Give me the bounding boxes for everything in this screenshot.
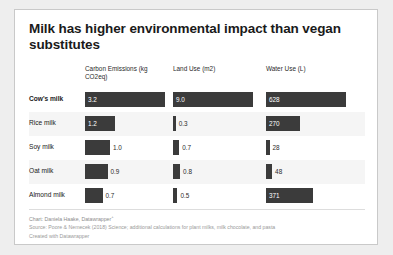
bar-cell: 371 [266, 188, 348, 203]
chart-footer: Chart: Daniela Haake, Datawrapper+ Sourc… [29, 209, 365, 241]
bar [85, 140, 110, 155]
bar-cell: 1.2 [85, 116, 167, 131]
footer-source: Source: Poore & Nemecek (2018) Science; … [29, 223, 365, 232]
bar-value-label: 0.7 [106, 192, 115, 200]
footer-credit-superscript: + [111, 214, 113, 219]
bar-value-label: 3.2 [88, 96, 97, 104]
bar [173, 164, 180, 179]
bar-value-label: 371 [269, 192, 280, 200]
column-header-land-use: Land Use (m2) [173, 65, 255, 73]
bar [266, 164, 272, 179]
bar [173, 116, 176, 131]
bar [173, 188, 177, 203]
bar-value-label: 0.3 [179, 120, 188, 128]
table-row: Cow's milk3.29.0628 [29, 88, 365, 112]
column-header-water-use: Water Use (L) [266, 65, 348, 73]
bar-value-label: 0.9 [111, 168, 120, 176]
bar [173, 140, 179, 155]
footer-created-with: Created with Datawrapper [29, 232, 365, 241]
bar-value-label: 1.2 [88, 120, 97, 128]
table-row: Soy milk1.00.728 [29, 136, 365, 160]
bar-value-label: 0.8 [183, 168, 192, 176]
bar-cell: 270 [266, 116, 348, 131]
bar [173, 92, 253, 107]
bar-value-label: 28 [273, 144, 280, 152]
column-headers: Carbon Emissions (kg CO2eq) Land Use (m2… [29, 65, 365, 88]
table-row: Oat milk0.90.848 [29, 160, 365, 184]
bar-cell: 9.0 [173, 92, 255, 107]
bar-cell: 28 [266, 140, 348, 155]
bar-value-label: 0.5 [180, 192, 189, 200]
bar-value-label: 48 [275, 168, 282, 176]
column-header-carbon-emissions: Carbon Emissions (kg CO2eq) [85, 65, 167, 81]
bar-cell: 0.9 [85, 164, 167, 179]
bar [85, 92, 165, 107]
footer-credit: Chart: Daniela Haake, Datawrapper+ [29, 213, 365, 223]
bar [85, 164, 108, 179]
table-row: Rice milk1.20.3270 [29, 112, 365, 136]
bar-cell: 48 [266, 164, 348, 179]
bar [85, 188, 103, 203]
row-label-rice-milk: Rice milk [29, 119, 83, 126]
bar-cell: 0.7 [85, 188, 167, 203]
bar-cell: 0.7 [173, 140, 255, 155]
bar-cell: 0.8 [173, 164, 255, 179]
bar-cell: 1.0 [85, 140, 167, 155]
bar-cell: 0.5 [173, 188, 255, 203]
bar-value-label: 270 [269, 120, 280, 128]
table-row: Almond milk0.70.5371 [29, 184, 365, 208]
row-label-soy-milk: Soy milk [29, 143, 83, 150]
bar-value-label: 628 [269, 96, 280, 104]
footer-credit-text: Chart: Daniela Haake, Datawrapper [29, 216, 111, 222]
row-label-almond-milk: Almond milk [29, 191, 83, 198]
bar-cell: 3.2 [85, 92, 167, 107]
bar-value-label: 9.0 [176, 96, 185, 104]
chart-rows: Cow's milk3.29.0628Rice milk1.20.3270Soy… [29, 88, 365, 208]
row-label-oat-milk: Oat milk [29, 167, 83, 174]
chart-body: Carbon Emissions (kg CO2eq) Land Use (m2… [29, 65, 365, 208]
bar [266, 140, 270, 155]
row-label-cow-s-milk: Cow's milk [29, 95, 83, 102]
page-title: Milk has higher environmental impact tha… [29, 21, 349, 52]
chart-card: Milk has higher environmental impact tha… [14, 9, 378, 245]
bar-cell: 0.3 [173, 116, 255, 131]
bar-value-label: 1.0 [113, 144, 122, 152]
bar-cell: 628 [266, 92, 348, 107]
bar-value-label: 0.7 [182, 144, 191, 152]
